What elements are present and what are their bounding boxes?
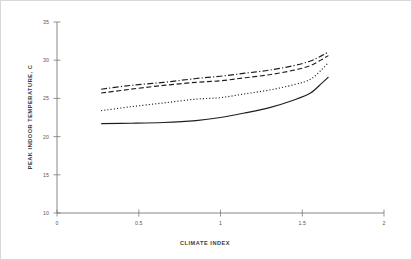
series-group xyxy=(101,52,328,124)
x-tick-label-1-5: 1.5 xyxy=(298,220,306,226)
y-tick-label-30: 30 xyxy=(43,57,49,63)
y-tick-label-10: 10 xyxy=(43,210,49,216)
x-tick-label-2: 2 xyxy=(382,220,385,226)
y-tick-label-15: 15 xyxy=(43,172,49,178)
series-line-dashed xyxy=(101,56,328,93)
line-chart-canvas: 35 30 25 20 15 10 0 0.5 1 1.5 2 CLIMATE … xyxy=(1,1,412,260)
series-line-solid xyxy=(101,77,328,124)
y-tick-label-35: 35 xyxy=(43,19,49,25)
x-tick-label-1: 1 xyxy=(219,220,222,226)
x-tick-label-0-5: 0.5 xyxy=(135,220,143,226)
chart-figure: 35 30 25 20 15 10 0 0.5 1 1.5 2 CLIMATE … xyxy=(0,0,412,260)
x-tick-label-0: 0 xyxy=(55,220,58,226)
y-tick-label-20: 20 xyxy=(43,134,49,140)
y-tick-label-25: 25 xyxy=(43,95,49,101)
y-axis-title: PEAK INDOOR TEMPERATURE, C xyxy=(27,65,33,170)
x-axis-title: CLIMATE INDEX xyxy=(180,240,230,246)
